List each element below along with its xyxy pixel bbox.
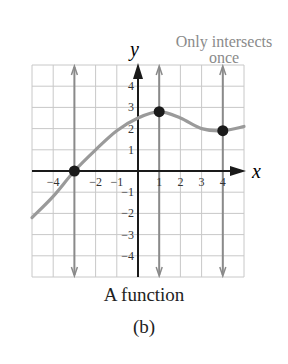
svg-text:−2: −2 (121, 206, 134, 220)
annotation-line-1: Only intersects (160, 34, 288, 49)
annotation-line-2: once (160, 50, 288, 65)
svg-text:−2: −2 (89, 175, 102, 189)
svg-text:1: 1 (128, 143, 134, 157)
y-axis-label: y (128, 38, 139, 61)
svg-text:4: 4 (128, 79, 134, 93)
x-axis-label: x (251, 160, 261, 182)
svg-text:3: 3 (199, 175, 205, 189)
svg-text:−4: −4 (47, 175, 60, 189)
svg-text:1: 1 (156, 175, 162, 189)
svg-text:−1: −1 (121, 185, 134, 199)
svg-text:−3: −3 (121, 228, 134, 242)
axes (32, 63, 246, 277)
svg-text:4: 4 (220, 175, 226, 189)
intersection-points (69, 106, 228, 176)
svg-text:3: 3 (128, 100, 134, 114)
svg-text:−4: −4 (121, 249, 134, 263)
caption-title: A function (0, 284, 288, 306)
caption-label: (b) (0, 316, 288, 338)
svg-text:2: 2 (177, 175, 183, 189)
